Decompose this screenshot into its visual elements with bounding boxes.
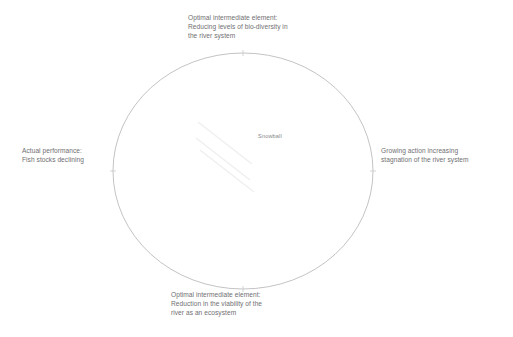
node-label-bottom: Optimal intermediate element: Reduction … bbox=[171, 290, 336, 318]
loop-center-label: Snowball bbox=[258, 132, 282, 140]
node-label-right: Growing action increasing stagnation of … bbox=[381, 146, 506, 164]
diagram-canvas: Optimal intermediate element: Reducing l… bbox=[0, 0, 513, 337]
node-label-left: Actual performance: Fish stocks declinin… bbox=[22, 146, 117, 164]
loop-circle bbox=[113, 53, 373, 289]
snowball-glyph-icon bbox=[196, 122, 254, 192]
causal-loop-graphic bbox=[0, 0, 513, 337]
node-label-top: Optimal intermediate element: Reducing l… bbox=[188, 13, 348, 41]
